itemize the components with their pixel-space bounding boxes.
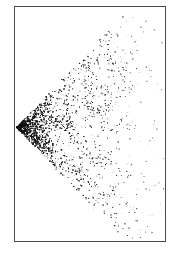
galaxy-points [16, 16, 164, 238]
galaxy-wedge-plot [0, 0, 174, 256]
